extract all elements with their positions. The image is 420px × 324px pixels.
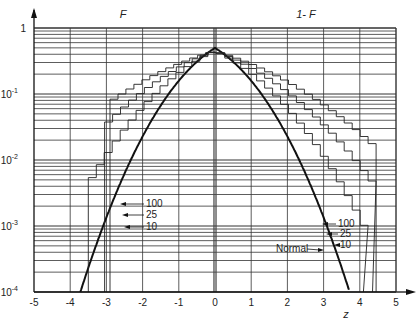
y-tick-label: 10-1	[1, 87, 18, 100]
label-1-minus-F: 1- F	[296, 8, 317, 20]
step-curve-100	[88, 53, 368, 293]
label-F: F	[120, 8, 128, 20]
y-tick-label: 10-3	[1, 219, 18, 232]
annotation-left-100: 100	[146, 198, 163, 209]
x-tick-label: 1	[248, 297, 254, 308]
annotation-right-10: 10	[340, 239, 352, 250]
x-axis-arrow-icon	[406, 289, 416, 295]
chart-container: -5-4-3-2-1012345110-110-210-310-4F1- Fz1…	[0, 0, 420, 324]
arrow-icon	[122, 213, 128, 217]
x-axis-label: z	[342, 308, 349, 320]
annotation-left-10: 10	[146, 221, 158, 232]
y-tick-label: 10-4	[1, 285, 18, 298]
y-axis-arrow-icon	[31, 8, 37, 18]
x-tick-label: -4	[66, 297, 75, 308]
x-tick-label: -5	[30, 297, 39, 308]
y-tick-label: 10-2	[1, 153, 18, 166]
annotation-normal: Normal	[276, 243, 308, 254]
x-tick-label: 2	[285, 297, 291, 308]
x-tick-label: 3	[321, 297, 327, 308]
arrow-icon	[120, 202, 126, 206]
step-curve-25	[105, 52, 377, 292]
x-tick-label: 5	[393, 297, 399, 308]
arrow-icon	[318, 248, 324, 252]
x-tick-label: -1	[174, 297, 183, 308]
y-tick-label: 1	[20, 23, 26, 34]
x-tick-label: -2	[138, 297, 147, 308]
x-tick-label: 4	[357, 297, 363, 308]
x-tick-label: 0	[212, 297, 218, 308]
annotation-right-25: 25	[340, 228, 352, 239]
annotation-left-25: 25	[146, 209, 158, 220]
x-tick-label: -3	[102, 297, 111, 308]
